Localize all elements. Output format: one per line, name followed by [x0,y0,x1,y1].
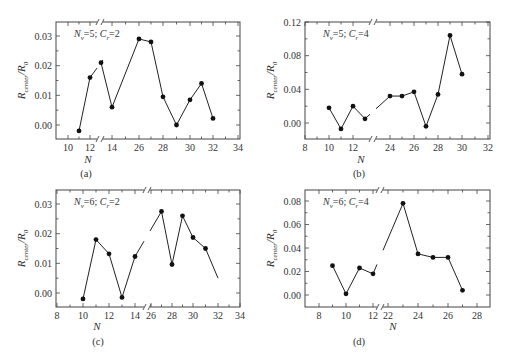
axis-break-icon [369,19,377,25]
y-tick-label: 0.12 [284,17,302,28]
y-axis: 0.000.010.020.03 [35,199,241,299]
panel-label: (c) [92,336,104,348]
parameter-annotation: Nv=5; Cr=4 [322,28,369,42]
series-line [333,203,463,293]
x-axis-title: N [83,153,92,165]
y-tick-label: 0.00 [284,118,302,129]
y-axis-title: Rcenter/R0 [264,61,279,100]
axis-break-icon [369,136,377,142]
data-point-marker [401,201,406,206]
x-tick-label: 8 [55,310,60,321]
x-tick-label: 30 [188,310,198,321]
y-axis: 0.000.010.020.03 [35,31,241,131]
y-tick-label: 0.02 [35,60,53,71]
data-point-marker [436,92,441,97]
data-point-marker [188,97,193,102]
parameter-annotation: Nv=6; Cr=4 [322,196,369,210]
data-point-marker [211,116,216,121]
data-point-marker [203,246,208,251]
y-axis-title: Rcenter/R0 [15,229,30,268]
data-point-marker [412,89,417,94]
x-axis: 81012142628303234 [55,190,246,321]
data-point-marker [446,255,451,260]
y-axis: 0.000.040.080.12 [284,17,491,129]
data-point-marker [424,124,429,129]
x-axis-title: N [92,320,101,332]
axis-break-icon [143,187,151,193]
data-point-marker [107,251,112,256]
data-point-marker [81,297,86,302]
x-tick-label: 26 [443,310,453,321]
x-tick-label: 24 [385,142,395,153]
data-point-marker [161,94,166,99]
x-tick-label: 26 [146,310,156,321]
data-point-marker [191,235,196,240]
x-tick-label: 34 [235,310,245,321]
data-point-marker [344,291,349,296]
x-tick-label: 24 [413,310,423,321]
x-tick-label: 26 [134,142,144,153]
data-point-marker [327,105,332,110]
x-tick-label: 32 [213,310,223,321]
x-tick-label: 28 [433,142,443,153]
x-tick-label: 10 [324,142,334,153]
data-point-marker [400,94,405,99]
x-tick-label: 26 [409,142,419,153]
x-tick-label: 10 [78,310,88,321]
panel-b: 0.000.040.080.12810122426283032Nv=5; Cr=… [264,17,493,181]
y-tick-label: 0.04 [284,243,302,254]
y-tick-label: 0.08 [284,196,302,207]
x-axis: 8101222242628 [317,190,483,321]
x-tick-label: 12 [85,142,95,153]
y-tick-label: 0.06 [284,219,302,230]
series-line [329,35,462,128]
x-tick-label: 12 [368,310,378,321]
data-point-marker [88,75,93,80]
data-point-marker [330,263,335,268]
series-line [79,39,213,131]
y-axis: 0.000.020.040.060.08 [284,196,491,301]
y-tick-label: 0.00 [35,120,53,131]
data-point-marker [339,126,344,131]
x-tick-label: 32 [208,142,218,153]
data-point-marker [133,254,138,259]
y-tick-label: 0.03 [35,31,53,42]
data-point-marker [94,237,99,242]
panel-label: (d) [353,336,366,348]
panel-d: 0.000.020.040.060.088101222242628Nv=6; C… [264,187,490,348]
data-point-marker [77,129,82,134]
axis-break-icon [96,136,104,142]
x-tick-label: 28 [167,310,177,321]
data-point-marker [388,94,393,99]
data-point-marker [174,123,179,128]
x-tick-label: 12 [104,310,114,321]
axis-break-icon [376,187,384,193]
data-points [77,37,216,134]
data-point-marker [199,81,204,86]
x-tick-label: 30 [185,142,195,153]
x-axis-title: N [388,320,397,332]
data-points [81,209,208,301]
data-point-marker [448,33,453,38]
data-point-marker [110,105,115,110]
data-point-marker [363,116,368,121]
data-point-marker [149,40,154,45]
x-tick-label: 14 [107,142,117,153]
y-tick-label: 0.02 [35,228,53,239]
y-tick-label: 0.01 [35,258,53,269]
parameter-annotation: Nv=5; Cr=2 [73,28,120,42]
data-point-marker [159,209,164,214]
panel-c: 0.000.010.020.0381012142628303234Nv=6; C… [15,187,245,348]
x-tick-label: 34 [233,142,243,153]
data-point-marker [357,266,362,271]
x-axis-title: N [356,153,365,165]
data-point-marker [170,262,175,267]
x-tick-label: 8 [303,142,308,153]
x-tick-label: 10 [341,310,351,321]
x-axis: 810122426283032 [303,22,494,153]
data-point-marker [416,251,421,256]
x-tick-label: 10 [63,142,73,153]
x-tick-label: 30 [457,142,467,153]
parameter-annotation: Nv=6; Cr=2 [73,196,120,210]
data-point-marker [431,255,436,260]
